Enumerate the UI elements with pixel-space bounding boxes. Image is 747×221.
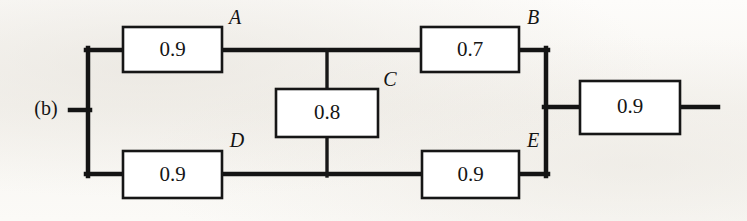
block-d-value: 0.9 (159, 162, 185, 186)
node-label-c: C (383, 68, 397, 90)
node-label-a: A (227, 6, 242, 28)
node-label-d: D (229, 129, 245, 151)
block-output: 0.9 (580, 81, 680, 134)
figure-caption: (b) (34, 97, 57, 120)
diagram-canvas: 0.9 A 0.7 B 0.8 C 0.9 D 0.9 E 0.9 (0, 0, 747, 221)
block-e-value: 0.9 (457, 162, 483, 186)
block-b: 0.7 (421, 27, 519, 72)
block-a-value: 0.9 (159, 37, 185, 61)
node-label-b: B (527, 6, 539, 28)
reliability-block-diagram-figure: 0.9 A 0.7 B 0.8 C 0.9 D 0.9 E 0.9 (0, 0, 747, 221)
block-c: 0.8 (276, 89, 378, 137)
node-label-e: E (526, 129, 539, 151)
block-b-value: 0.7 (457, 37, 483, 61)
block-output-value: 0.9 (617, 94, 643, 118)
block-e: 0.9 (422, 151, 519, 198)
block-c-value: 0.8 (314, 100, 340, 124)
block-d: 0.9 (123, 151, 222, 198)
block-a: 0.9 (123, 27, 222, 72)
